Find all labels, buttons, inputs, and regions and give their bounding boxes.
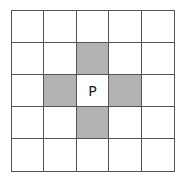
cell-4-0 bbox=[12, 139, 44, 171]
cell-1-4 bbox=[142, 43, 174, 75]
cell-2-4 bbox=[142, 75, 174, 107]
cell-3-3 bbox=[109, 107, 141, 139]
cell-1-1 bbox=[44, 43, 76, 75]
neighbor-cell-bottom bbox=[77, 107, 109, 139]
cell-4-4 bbox=[142, 139, 174, 171]
cell-0-1 bbox=[44, 11, 76, 43]
pixel-grid: P bbox=[11, 10, 175, 172]
cell-3-0 bbox=[12, 107, 44, 139]
cell-0-4 bbox=[142, 11, 174, 43]
neighbor-cell-right bbox=[109, 75, 141, 107]
neighbor-cell-left bbox=[44, 75, 76, 107]
cell-0-0 bbox=[12, 11, 44, 43]
cell-2-0 bbox=[12, 75, 44, 107]
cell-1-0 bbox=[12, 43, 44, 75]
cell-3-4 bbox=[142, 107, 174, 139]
cell-1-3 bbox=[109, 43, 141, 75]
neighbor-cell-top bbox=[77, 43, 109, 75]
cell-0-3 bbox=[109, 11, 141, 43]
cell-3-1 bbox=[44, 107, 76, 139]
cell-0-2 bbox=[77, 11, 109, 43]
cell-4-2 bbox=[77, 139, 109, 171]
cell-4-3 bbox=[109, 139, 141, 171]
cell-4-1 bbox=[44, 139, 76, 171]
center-cell-p: P bbox=[77, 75, 109, 107]
